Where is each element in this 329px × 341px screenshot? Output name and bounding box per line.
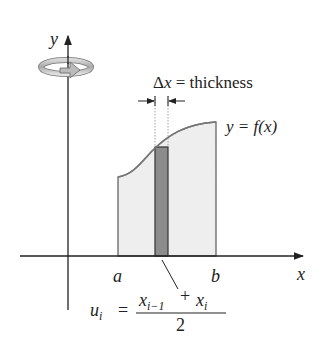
b-label: b: [211, 266, 220, 286]
x-axis-label: x: [296, 264, 305, 284]
thickness-label: Δx = thickness: [153, 73, 253, 92]
shell-strip: [155, 147, 168, 256]
shell-method-diagram: y x a b Δx = thickness y = f(x) ui = xi−…: [0, 0, 329, 341]
svg-text:xi−1: xi−1: [138, 290, 164, 313]
midpoint-pointer: [162, 260, 178, 289]
svg-text:ui: ui: [90, 300, 102, 323]
rotation-arrow-icon: [41, 56, 91, 78]
svg-text:+: +: [180, 286, 190, 306]
curve-label: y = f(x): [224, 117, 277, 136]
a-label: a: [113, 266, 122, 286]
midpoint-formula: ui = xi−1 + xi 2: [90, 286, 226, 335]
y-axis-label: y: [48, 29, 58, 49]
thickness-arrows: [138, 96, 185, 106]
svg-text:=: =: [118, 300, 128, 320]
svg-text:2: 2: [176, 315, 185, 335]
svg-text:xi: xi: [195, 290, 207, 313]
